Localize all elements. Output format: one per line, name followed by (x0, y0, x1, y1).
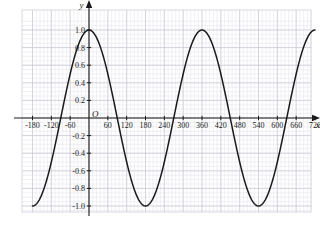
x-tick-label: 240 (158, 121, 170, 130)
x-tick-label: -120 (44, 121, 59, 130)
x-tick-label: -60 (65, 121, 76, 130)
x-tick-label: 420 (215, 121, 227, 130)
chart-figure: -180-120-6060120180240300360420480540600… (0, 0, 320, 227)
y-tick-label: -0.8 (72, 184, 85, 193)
y-tick-label: 0.2 (75, 96, 85, 105)
x-tick-label: 360 (196, 121, 208, 130)
y-tick-label: -0.2 (72, 132, 85, 141)
x-tick-label: -180 (25, 121, 40, 130)
origin-label: O (92, 109, 99, 119)
x-tick-label: 660 (290, 121, 302, 130)
x-tick-label: 600 (271, 121, 283, 130)
y-axis-label: y (79, 0, 84, 10)
y-tick-label: 0.4 (75, 79, 85, 88)
y-tick-label: -0.6 (72, 167, 85, 176)
x-tick-label: 540 (253, 121, 265, 130)
x-axis-label: x (315, 120, 320, 130)
y-tick-label: -1.0 (72, 202, 85, 211)
x-tick-label: 120 (121, 121, 133, 130)
x-tick-label: 180 (140, 121, 152, 130)
y-tick-label: -0.4 (72, 149, 85, 158)
y-tick-label: 0.6 (75, 61, 85, 70)
cosine-graph: -180-120-6060120180240300360420480540600… (0, 0, 320, 227)
x-tick-label: 480 (234, 121, 246, 130)
x-tick-label: 300 (177, 121, 189, 130)
x-tick-label: 60 (104, 121, 112, 130)
